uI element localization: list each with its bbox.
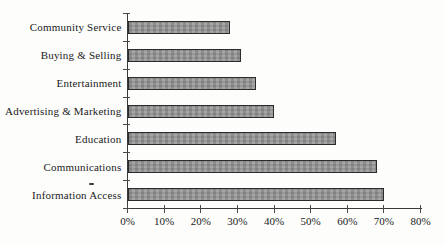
horizontal-bar-chart: Community ServiceBuying & SellingEnterta… <box>0 0 445 245</box>
value-axis-tick-label: 60% <box>327 215 367 228</box>
category-axis-tick <box>123 41 130 42</box>
bar-information-access <box>128 188 384 201</box>
value-axis-tick <box>310 205 311 213</box>
category-label: Community Service <box>30 20 122 34</box>
value-axis-tick <box>274 205 275 213</box>
value-axis <box>128 208 422 209</box>
value-axis-tick-label: 80% <box>401 215 441 228</box>
scan-artifact-dash <box>89 183 94 185</box>
category-axis-tick <box>123 208 130 209</box>
category-label: Communications <box>44 160 122 174</box>
value-axis-tick-label: 10% <box>144 215 184 228</box>
category-axis-tick <box>123 97 130 98</box>
category-axis-tick <box>123 124 130 125</box>
category-label: Buying & Selling <box>41 48 122 62</box>
value-axis-tick-label: 70% <box>364 215 404 228</box>
value-axis-tick-label: 50% <box>291 215 331 228</box>
category-axis-tick <box>123 13 130 14</box>
value-axis-tick <box>237 205 238 213</box>
category-axis-tick <box>123 180 130 181</box>
value-axis-tick <box>164 205 165 213</box>
bar-advertising-marketing <box>128 105 275 118</box>
bar-community-service <box>128 21 231 34</box>
value-axis-tick-label: 0% <box>108 215 148 228</box>
bar-entertainment <box>128 77 256 90</box>
category-label: Information Access <box>32 188 121 202</box>
value-axis-tick-label: 20% <box>181 215 221 228</box>
value-axis-tick <box>347 205 348 213</box>
bar-communications <box>128 160 377 173</box>
value-axis-tick-label: 40% <box>254 215 294 228</box>
value-axis-tick <box>420 205 421 213</box>
category-label: Advertising & Marketing <box>5 104 121 118</box>
category-axis-tick <box>123 152 130 153</box>
bar-buying-selling <box>128 49 242 62</box>
category-axis-tick <box>123 69 130 70</box>
bar-education <box>128 132 337 145</box>
category-label: Education <box>75 132 121 146</box>
category-label: Entertainment <box>57 76 122 90</box>
value-axis-tick <box>127 205 128 213</box>
value-axis-tick <box>383 205 384 213</box>
value-axis-tick <box>200 205 201 213</box>
value-axis-tick-label: 30% <box>217 215 257 228</box>
